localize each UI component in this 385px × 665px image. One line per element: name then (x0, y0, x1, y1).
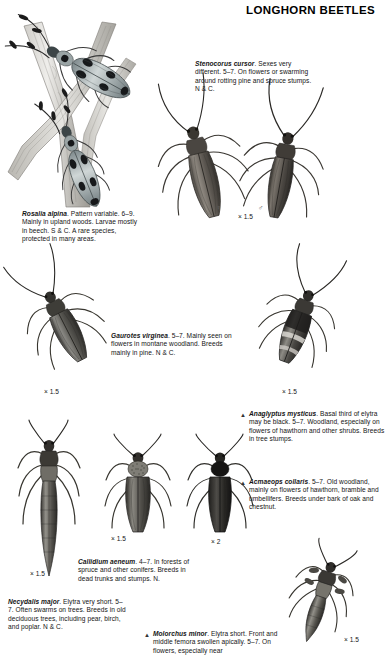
scale-label-stenocorus: × 1.5 (238, 213, 253, 220)
illustration-anaglyptus-mysticus (250, 268, 346, 380)
illustration-rosalia-alpina (6, 22, 176, 207)
triangle-marker-molorchus: ▲ (144, 631, 150, 639)
triangle-marker-anaglyptus: ▲ (240, 411, 246, 419)
species-name-rosalia-alpina: Rosalia alpina (22, 210, 67, 217)
species-name-stenocorus-cursor: Stenocorus cursor (195, 60, 254, 67)
caption-molorchus-minor: ▲ Molorchus minor. Elytra short. Front a… (144, 630, 289, 655)
illustration-necydalis-major (10, 418, 88, 586)
illustration-stenocorus-cursor-female (158, 108, 246, 226)
scale-label-anaglyptus: × 1.5 (282, 388, 297, 395)
scale-label-gaurotes: × 1.5 (44, 388, 59, 395)
caption-callidium-aeneum: Callidium aeneum. 4–7. In forests of spr… (78, 558, 196, 583)
species-name-gaurotes-virginea: Gaurotes virginea (111, 332, 168, 339)
scale-label-callidium: × 1.5 (111, 535, 126, 542)
page-title: LONGHORN BEETLES (246, 4, 375, 16)
illustration-molorchus-minor (282, 548, 362, 642)
species-name-necydalis-major: Necydalis major (8, 598, 59, 605)
caption-stenocorus-cursor: Stenocorus cursor. Sexes very different.… (195, 60, 313, 93)
illustration-gaurotes-virginea (18, 268, 110, 380)
scale-label-necydalis: × 1.5 (30, 570, 45, 577)
scale-label-molorchus: × 1.5 (344, 636, 359, 643)
illustration-stenocorus-cursor-male (240, 116, 324, 228)
caption-gaurotes-virginea: Gaurotes virginea. 5–7. Mainly seen on f… (111, 332, 233, 357)
species-name-callidium-aeneum: Callidium aeneum (78, 558, 135, 565)
illustration-callidium-aeneum (100, 432, 176, 548)
illustration-acmaeops-collaris-pair (180, 432, 260, 548)
species-name-molorchus-minor: Molorchus minor (153, 630, 207, 637)
female-symbol-stenocorus: ♀ (216, 204, 221, 211)
caption-anaglyptus-mysticus: ▲ Anaglyptus mysticus. Basal third of el… (240, 410, 385, 443)
species-name-anaglyptus-mysticus: Anaglyptus mysticus (249, 410, 316, 417)
caption-rosalia-alpina: Rosalia alpina. Pattern variable. 6–9. M… (22, 210, 144, 243)
male-symbol-stenocorus: ♂ (258, 204, 263, 211)
caption-acmaeops-collaris: ▲ Acmaeops collaris. 5–7. Old woodland, … (240, 478, 385, 511)
caption-necydalis-major: Necydalis major. Elytra very short. 5–7.… (8, 598, 128, 631)
scale-label-acmaeops-pair: × 2 (211, 538, 220, 545)
